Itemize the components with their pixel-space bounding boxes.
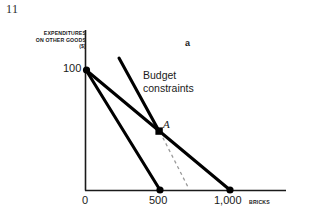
marker-x-intercept-1000 <box>226 186 233 193</box>
y-axis-caption-line-3: ($) <box>30 43 86 50</box>
budget-constraints-annotation-line-2: constraints <box>143 82 194 95</box>
figure-container: 11 EXPENDITURES ON OTHER GOODS ($) BRICK… <box>0 0 309 222</box>
budget-constraints-annotation-line-1: Budget <box>143 69 194 82</box>
x-axis-caption: BRICKS <box>249 199 270 206</box>
panel-label: a <box>185 38 190 48</box>
tangent-indicator-dashed-line <box>160 132 189 189</box>
x-tick-label-1000: 1,000 <box>214 194 242 206</box>
marker-point-a <box>155 127 162 134</box>
y-axis-caption-line-2: ON OTHER GOODS <box>30 37 86 44</box>
x-tick-label-500: 500 <box>149 194 167 206</box>
y-axis-caption: EXPENDITURES ON OTHER GOODS ($) <box>30 30 86 50</box>
budget-constraints-annotation: Budget constraints <box>143 69 194 94</box>
x-tick-label-0: 0 <box>82 194 88 206</box>
y-axis-caption-line-1: EXPENDITURES <box>30 30 86 37</box>
marker-x-intercept-500 <box>156 186 163 193</box>
marker-y-intercept-100 <box>83 66 90 73</box>
point-a-label: A <box>163 118 170 130</box>
y-tick-label-100: 100 <box>63 62 81 74</box>
